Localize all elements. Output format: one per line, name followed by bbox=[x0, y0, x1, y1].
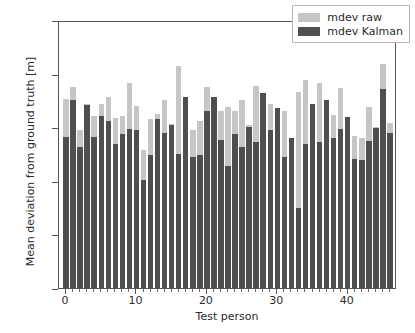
x-minor-tick-mark bbox=[93, 289, 94, 292]
x-minor-tick-mark bbox=[79, 289, 80, 292]
bar-group bbox=[141, 22, 146, 288]
bar-mdev-kalman bbox=[303, 144, 308, 288]
x-minor-tick-mark bbox=[312, 289, 313, 292]
bar-mdev-kalman bbox=[176, 154, 181, 288]
bar-mdev-kalman bbox=[225, 166, 230, 288]
x-minor-tick-mark bbox=[241, 289, 242, 292]
x-minor-tick-mark bbox=[255, 289, 256, 292]
x-minor-tick-mark bbox=[213, 289, 214, 292]
bar-mdev-kalman bbox=[197, 155, 202, 288]
x-tick-label: 0 bbox=[62, 294, 69, 307]
bar-group bbox=[84, 22, 89, 288]
bar-mdev-kalman bbox=[77, 147, 82, 289]
x-minor-tick-mark bbox=[297, 289, 298, 292]
bar-group bbox=[373, 22, 378, 288]
y-axis-label: Mean deviation from ground truth [m] bbox=[24, 28, 37, 296]
bar-mdev-kalman bbox=[190, 157, 195, 288]
bar-mdev-kalman bbox=[268, 130, 273, 288]
bar-mdev-kalman bbox=[155, 119, 160, 288]
x-minor-tick-mark bbox=[178, 289, 179, 292]
bar-mdev-kalman bbox=[366, 141, 371, 288]
x-minor-tick-mark bbox=[389, 289, 390, 292]
bar-group bbox=[91, 22, 96, 288]
bar-mdev-kalman bbox=[120, 134, 125, 288]
bar-group bbox=[387, 22, 392, 288]
bar-mdev-kalman bbox=[352, 159, 357, 288]
bar-mdev-kalman bbox=[169, 125, 174, 288]
x-tick-label: 20 bbox=[199, 294, 213, 307]
legend-swatch-kalman bbox=[298, 27, 320, 36]
x-minor-tick-mark bbox=[220, 289, 221, 292]
bar-group bbox=[296, 22, 301, 288]
bar-mdev-kalman bbox=[106, 121, 111, 288]
x-tick-label: 40 bbox=[340, 294, 354, 307]
y-tick-mark bbox=[52, 289, 58, 290]
bar-mdev-kalman bbox=[289, 138, 294, 288]
bar-group bbox=[70, 22, 75, 288]
x-minor-tick-mark bbox=[107, 289, 108, 292]
bar-mdev-kalman bbox=[211, 97, 216, 288]
x-minor-tick-mark bbox=[304, 289, 305, 292]
bar-group bbox=[211, 22, 216, 288]
x-minor-tick-mark bbox=[199, 289, 200, 292]
bar-group bbox=[162, 22, 167, 288]
bar-mdev-kalman bbox=[204, 111, 209, 288]
x-minor-tick-mark bbox=[100, 289, 101, 292]
bar-mdev-kalman bbox=[127, 129, 132, 288]
x-minor-tick-mark bbox=[354, 289, 355, 292]
bar-mdev-kalman bbox=[134, 130, 139, 288]
bar-mdev-kalman bbox=[84, 105, 89, 288]
bar-mdev-kalman bbox=[183, 97, 188, 288]
bar-group bbox=[106, 22, 111, 288]
legend-swatch-raw bbox=[298, 13, 320, 22]
bar-mdev-kalman bbox=[141, 180, 146, 288]
bar-group bbox=[282, 22, 287, 288]
bar-mdev-kalman bbox=[162, 133, 167, 288]
bar-group bbox=[268, 22, 273, 288]
bar-group bbox=[331, 22, 336, 288]
bar-group bbox=[197, 22, 202, 288]
x-tick-label: 30 bbox=[269, 294, 283, 307]
bar-group bbox=[204, 22, 209, 288]
legend-label-kalman: mdev Kalman bbox=[327, 25, 403, 38]
bar-mdev-kalman bbox=[253, 142, 258, 288]
bar-mdev-kalman bbox=[91, 137, 96, 288]
x-minor-tick-mark bbox=[86, 289, 87, 292]
x-minor-tick-mark bbox=[114, 289, 115, 292]
x-minor-tick-mark bbox=[382, 289, 383, 292]
bar-mdev-kalman bbox=[310, 104, 315, 288]
bar-group bbox=[169, 22, 174, 288]
x-tick-label: 10 bbox=[128, 294, 142, 307]
bar-group bbox=[289, 22, 294, 288]
bar-group bbox=[176, 22, 181, 288]
bar-group bbox=[275, 22, 280, 288]
x-minor-tick-mark bbox=[340, 289, 341, 292]
bar-mdev-kalman bbox=[345, 117, 350, 288]
bar-group bbox=[127, 22, 132, 288]
bar-mdev-kalman bbox=[359, 160, 364, 288]
bar-group bbox=[77, 22, 82, 288]
bar-group bbox=[338, 22, 343, 288]
x-minor-tick-mark bbox=[157, 289, 158, 292]
bar-group bbox=[253, 22, 258, 288]
bar-mdev-kalman bbox=[380, 89, 385, 288]
bar-mdev-kalman bbox=[63, 137, 68, 288]
bar-group bbox=[155, 22, 160, 288]
chart-legend: mdev raw mdev Kalman bbox=[292, 5, 410, 43]
bar-group bbox=[345, 22, 350, 288]
bar-group bbox=[260, 22, 265, 288]
x-minor-tick-mark bbox=[150, 289, 151, 292]
x-minor-tick-mark bbox=[234, 289, 235, 292]
x-minor-tick-mark bbox=[269, 289, 270, 292]
bar-group bbox=[310, 22, 315, 288]
x-minor-tick-mark bbox=[361, 289, 362, 292]
bar-mdev-kalman bbox=[282, 157, 287, 288]
x-minor-tick-mark bbox=[319, 289, 320, 292]
bar-mdev-kalman bbox=[296, 208, 301, 288]
x-minor-tick-mark bbox=[368, 289, 369, 292]
x-minor-tick-mark bbox=[171, 289, 172, 292]
x-minor-tick-mark bbox=[375, 289, 376, 292]
bar-mdev-kalman bbox=[338, 129, 343, 288]
bar-group bbox=[317, 22, 322, 288]
bar-group bbox=[239, 22, 244, 288]
